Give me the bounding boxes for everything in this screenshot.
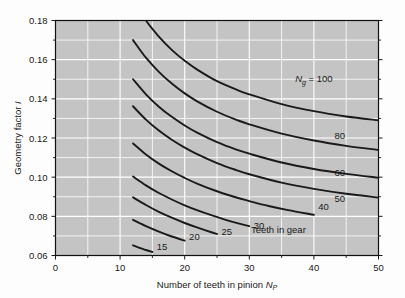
curve-label-15: 15 <box>157 241 168 252</box>
chart-figure: 01020304050 0.060.080.100.120.140.160.18… <box>0 0 405 298</box>
y-tick-label: 0.12 <box>29 133 48 144</box>
x-tick-label: 0 <box>53 262 58 273</box>
y-tick-label: 0.10 <box>29 172 48 183</box>
x-tick-label: 50 <box>373 262 384 273</box>
x-tick-label: 40 <box>309 262 320 273</box>
y-tick-label: 0.18 <box>29 15 48 26</box>
chart-annotations: Teeth in gear <box>251 224 306 235</box>
y-tick-label: 0.16 <box>29 54 48 65</box>
curve-label-60: 60 <box>334 167 345 178</box>
x-tick-label: 30 <box>244 262 255 273</box>
y-tick-label: 0.14 <box>29 93 48 104</box>
x-tick-label: 10 <box>115 262 126 273</box>
geometry-factor-chart: 01020304050 0.060.080.100.120.140.160.18… <box>0 0 405 298</box>
curve-label-80: 80 <box>334 130 345 141</box>
curve-label-25: 25 <box>221 226 232 237</box>
x-axis-title: Number of teeth in pinion NP <box>157 279 278 292</box>
y-tick-label: 0.06 <box>29 250 48 261</box>
curve-label-40: 40 <box>318 201 329 212</box>
annotation-teeth-in-gear: Teeth in gear <box>251 224 306 235</box>
x-tick-label: 20 <box>179 262 190 273</box>
y-axis-title: Geometry factor I <box>12 101 23 175</box>
curve-label-50: 50 <box>334 193 345 204</box>
curve-label-20: 20 <box>189 231 200 242</box>
y-tick-label: 0.08 <box>29 211 48 222</box>
